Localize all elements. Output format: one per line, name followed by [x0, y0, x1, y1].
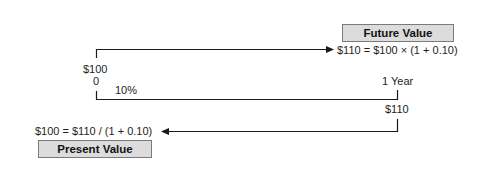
- present-value-box: Present Value: [38, 140, 152, 158]
- future-value-label: Future Value: [363, 27, 432, 39]
- present-value-label: Present Value: [57, 143, 132, 155]
- start-time: 0: [93, 75, 99, 88]
- end-amount: $110: [385, 103, 409, 116]
- discounting-arrow: [162, 119, 398, 132]
- timeline-axis: [97, 90, 398, 100]
- interest-rate: 10%: [115, 84, 137, 97]
- end-time: 1 Year: [382, 75, 413, 88]
- future-value-formula: $110 = $100 × (1 + 0.10): [337, 44, 458, 57]
- compounding-arrow: [97, 50, 334, 59]
- diagram-canvas: Future Value $110 = $100 × (1 + 0.10) $1…: [0, 0, 486, 176]
- future-value-box: Future Value: [342, 24, 454, 42]
- present-value-formula: $100 = $110 / (1 + 0.10): [35, 125, 152, 138]
